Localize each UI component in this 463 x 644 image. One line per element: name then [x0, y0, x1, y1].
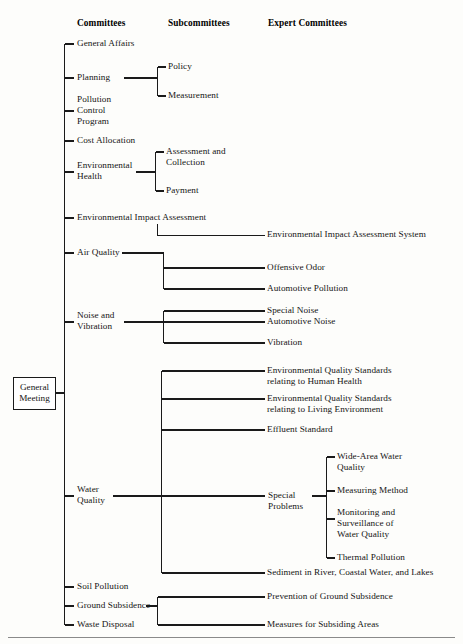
expert-committee-effluent-standard: Effluent Standard: [267, 424, 333, 435]
column-header-committees: Committees: [77, 18, 126, 28]
expert-committee-sediment-river-coastal-lakes: Sediment in River, Coastal Water, and La…: [267, 567, 433, 578]
expert-committee-eqs-human-health: Environmental Quality Standards relating…: [267, 365, 392, 387]
special-problem-wide-area-water-quality: Wide-Area Water Quality: [337, 451, 402, 473]
committee-pollution-control-program: Pollution Control Program: [77, 94, 111, 128]
bottom-divider: [8, 637, 455, 638]
committee-general-affairs: General Affairs: [77, 38, 134, 49]
expert-committee-special-noise: Special Noise: [267, 305, 318, 316]
committee-noise-and-vibration: Noise and Vibration: [77, 310, 114, 332]
committee-cost-allocation: Cost Allocation: [77, 135, 135, 146]
connector-lines: [0, 0, 463, 644]
committee-water-quality: Water Quality: [77, 484, 105, 506]
special-problem-monitoring-and-surveillance: Monitoring and Surveillance of Water Qua…: [337, 507, 395, 541]
subcommittee-assessment-and-collection: Assessment and Collection: [166, 146, 226, 168]
subcommittee-special-problems: Special Problems: [268, 490, 303, 512]
expert-committee-vibration: Vibration: [267, 337, 302, 348]
expert-committee-prevention-of-ground-subsidence: Prevention of Ground Subsidence: [267, 591, 393, 602]
subcommittee-measurement: Measurement: [168, 90, 219, 101]
expert-committee-measures-for-subsiding-areas: Measures for Subsiding Areas: [267, 619, 379, 630]
column-header-expert-committees: Expert Committees: [268, 18, 347, 28]
expert-committee-offensive-odor: Offensive Odor: [267, 262, 325, 273]
organization-chart: Committees Subcommittees Expert Committe…: [0, 0, 463, 644]
subcommittee-payment: Payment: [166, 185, 199, 196]
committee-air-quality: Air Quality: [77, 247, 120, 258]
expert-committee-automotive-pollution: Automotive Pollution: [267, 283, 348, 294]
root-node-general-meeting: General Meeting: [13, 377, 56, 410]
expert-committee-environmental-impact-assessment-system: Environmental Impact Assessment System: [267, 229, 426, 240]
committee-environmental-impact-assessment: Environmental Impact Assessment: [77, 212, 206, 223]
subcommittee-policy: Policy: [168, 61, 192, 72]
expert-committee-automotive-noise: Automotive Noise: [267, 316, 335, 327]
committee-ground-subsidence: Ground Subsidence: [77, 600, 150, 611]
special-problem-measuring-method: Measuring Method: [337, 485, 408, 496]
committee-planning: Planning: [77, 72, 110, 83]
committee-soil-pollution: Soil Pollution: [77, 581, 129, 592]
special-problem-thermal-pollution: Thermal Pollution: [337, 552, 405, 563]
column-header-subcommittees: Subcommittees: [168, 18, 230, 28]
committee-environmental-health: Environmental Health: [77, 160, 132, 182]
expert-committee-eqs-living-environment: Environmental Quality Standards relating…: [267, 393, 392, 415]
committee-waste-disposal: Waste Disposal: [77, 619, 134, 630]
